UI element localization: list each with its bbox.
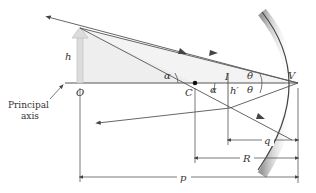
label-h: h <box>65 51 71 62</box>
ray-arrow-lower <box>256 113 265 119</box>
object-arrow-shaft <box>77 36 83 83</box>
principal-axis-pointer <box>50 86 62 99</box>
ray-reflected-back <box>98 108 230 123</box>
theta-arc-lower <box>260 83 262 93</box>
label-axis: axis <box>21 111 39 121</box>
label-theta-lower: θ <box>247 84 253 95</box>
label-alpha-right: α <box>210 84 217 95</box>
center-of-curvature-point <box>193 81 198 86</box>
label-r: R <box>242 153 251 164</box>
ray-arrow-upper <box>209 50 218 56</box>
label-alpha-left: α <box>164 70 171 81</box>
mirror-back <box>262 12 291 175</box>
label-p: p <box>180 172 187 183</box>
ray-through-center <box>80 28 292 140</box>
label-principal: Principal <box>8 100 49 110</box>
label-c: C <box>185 87 193 98</box>
label-q: q <box>264 135 270 146</box>
label-theta-upper: θ <box>247 70 253 81</box>
ray-arrow-mid <box>178 48 187 54</box>
label-o: O <box>76 87 84 98</box>
concave-mirror-diagram: h O C I h′ V α α θ θ Principal axis q R … <box>0 0 316 193</box>
label-h-prime: h′ <box>230 85 239 96</box>
